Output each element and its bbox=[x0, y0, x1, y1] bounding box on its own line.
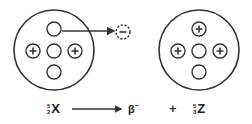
neutron-icon bbox=[47, 65, 61, 79]
plus-sign: + bbox=[169, 102, 177, 115]
daughter-isotope-label: 5 3 Z bbox=[193, 101, 205, 116]
decay-diagram bbox=[0, 0, 252, 124]
parent-nucleus bbox=[14, 10, 94, 90]
parent-atomic-number: 2 bbox=[47, 109, 50, 115]
beta-charge: − bbox=[135, 102, 139, 109]
daughter-nucleus bbox=[159, 10, 239, 90]
beta-particle-label: β− bbox=[128, 102, 139, 115]
neutron-icon bbox=[192, 44, 206, 58]
parent-symbol: X bbox=[51, 101, 60, 116]
proton-icon bbox=[192, 22, 206, 36]
daughter-symbol: Z bbox=[197, 101, 205, 116]
proton-icon bbox=[213, 44, 227, 58]
neutron-icon bbox=[192, 65, 206, 79]
electron-icon bbox=[116, 25, 130, 39]
neutron-icon bbox=[47, 44, 61, 58]
beta-symbol: β bbox=[128, 103, 135, 115]
proton-icon bbox=[26, 44, 40, 58]
proton-icon bbox=[171, 44, 185, 58]
proton-icon bbox=[68, 44, 82, 58]
daughter-atomic-number: 3 bbox=[193, 109, 196, 115]
neutron-icon bbox=[47, 22, 61, 36]
parent-isotope-label: 5 2 X bbox=[47, 101, 60, 116]
